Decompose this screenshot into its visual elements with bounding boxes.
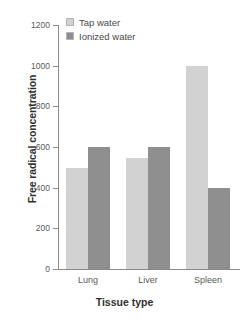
- x-axis-title: Tissue type: [0, 296, 249, 308]
- plot-area: 020040060080010001200 LungLiverSpleen: [58, 25, 238, 270]
- bar-group: Lung: [66, 25, 110, 269]
- bar-chart-figure: Free radical concentration Tissue type 0…: [0, 0, 249, 320]
- y-axis-tick-label: 1000: [31, 61, 50, 71]
- legend-label: Ionized water: [79, 31, 136, 42]
- y-axis-title: Free radical concentration: [26, 44, 38, 234]
- y-axis-tick: [53, 66, 58, 67]
- bar-group: Liver: [126, 25, 170, 269]
- y-axis-tick: [53, 147, 58, 148]
- bar[interactable]: [186, 66, 208, 269]
- y-axis-tick-label: 600: [36, 142, 50, 152]
- bar[interactable]: [66, 168, 88, 269]
- legend-swatch-icon: [66, 32, 74, 40]
- x-axis-line: [58, 269, 240, 270]
- y-axis-tick: [53, 25, 58, 26]
- bar[interactable]: [148, 147, 170, 269]
- y-axis-tick-label: 1200: [31, 20, 50, 30]
- legend-item[interactable]: Tap water: [66, 15, 136, 29]
- bar[interactable]: [126, 158, 148, 269]
- y-axis-tick: [53, 269, 58, 270]
- legend-swatch-icon: [66, 18, 74, 26]
- y-axis-tick-label: 200: [36, 223, 50, 233]
- y-axis-tick-label: 400: [36, 183, 50, 193]
- bar[interactable]: [88, 147, 110, 269]
- y-axis-line: [58, 25, 59, 270]
- bar[interactable]: [208, 188, 230, 269]
- y-axis-tick: [53, 188, 58, 189]
- y-axis-tick: [53, 106, 58, 107]
- legend: Tap waterIonized water: [66, 15, 136, 43]
- legend-label: Tap water: [79, 17, 120, 28]
- y-axis-tick-label: 0: [45, 264, 50, 274]
- y-axis-tick-label: 800: [36, 101, 50, 111]
- x-axis-tick-label: Spleen: [148, 275, 249, 285]
- legend-item[interactable]: Ionized water: [66, 29, 136, 43]
- bar-group: Spleen: [186, 25, 230, 269]
- y-axis-tick: [53, 228, 58, 229]
